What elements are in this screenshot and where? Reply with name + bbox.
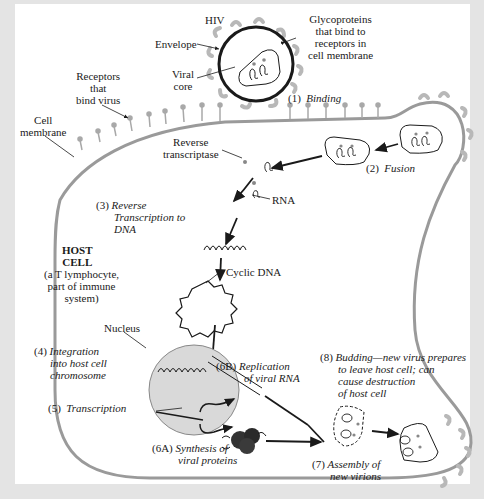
step-1-binding: (1) Binding xyxy=(288,92,341,104)
host-cell-title: HOSTCELL xyxy=(62,244,93,268)
cyclic-dna-label: Cyclic DNA xyxy=(226,266,281,278)
nucleus xyxy=(149,345,239,435)
receptors-label: Receptorsthatbind virus xyxy=(76,70,120,106)
hiv-label: HIV xyxy=(205,14,225,26)
host-cell-description: (a T lymphocyte,part of immunesystem) xyxy=(44,268,119,304)
step-6a-synthesis: (6A) Synthesis of viral proteins xyxy=(152,442,237,466)
reverse-transcriptase-label: Reversetranscriptase xyxy=(163,136,219,160)
step-7-assembly: (7) Assembly of new virions xyxy=(312,458,381,482)
viral-core-label: Viralcore xyxy=(172,68,194,92)
fusing-virions xyxy=(325,125,442,165)
step-5-transcription: (5) Transcription xyxy=(48,402,126,414)
step-6b-replication: (6B) Replication of viral RNA xyxy=(216,360,300,384)
envelope-label: Envelope xyxy=(155,38,197,50)
step-3-reverse-transcription: (3) Reverse Transcription to DNA xyxy=(96,199,185,235)
nucleus-label: Nucleus xyxy=(104,322,140,334)
step-8-budding: (8) Budding—new virus prepares to leave … xyxy=(320,351,466,399)
glycoproteins-label: Glycoproteinsthat bind toreceptors incel… xyxy=(308,13,373,61)
cyclic-dna xyxy=(176,281,237,337)
rna-label: RNA xyxy=(272,194,295,206)
budding-virion xyxy=(400,423,438,462)
assembling-virion xyxy=(334,406,364,446)
step-2-fusion: (2) Fusion xyxy=(366,162,415,174)
dna-helix xyxy=(204,246,246,250)
step-4-integration: (4) Integration into host cell chromosom… xyxy=(34,345,107,381)
cell-membrane-label: Cellmembrane xyxy=(20,114,66,138)
